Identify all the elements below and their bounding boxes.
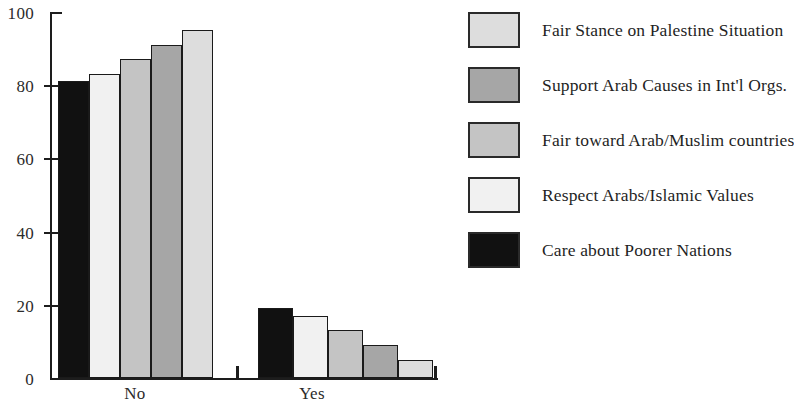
bar-yes-care-about-poorer-nations <box>258 308 293 378</box>
legend-item-care-about-poorer-nations: Care about Poorer Nations <box>468 228 732 272</box>
legend-swatch-fair-stance-on-palestine <box>468 12 520 48</box>
y-tick-label-0: 0 <box>0 371 34 388</box>
legend-item-respect-arabs-islamic-values: Respect Arabs/Islamic Values <box>468 173 754 217</box>
plot-area: 100 80 60 40 20 0 No Yes <box>0 0 460 407</box>
y-axis-line <box>50 12 52 380</box>
y-tick-mark-40 <box>44 232 58 234</box>
legend-item-support-arab-causes: Support Arab Causes in Int'l Orgs. <box>468 63 787 107</box>
bar-no-care-about-poorer-nations <box>58 81 89 378</box>
legend-swatch-care-about-poorer-nations <box>468 232 520 268</box>
legend-label-support-arab-causes: Support Arab Causes in Int'l Orgs. <box>542 75 787 96</box>
y-tick-mark-60 <box>44 158 58 160</box>
bar-no-fair-toward-arab-muslim-countries <box>120 59 151 378</box>
x-axis-label-yes: Yes <box>282 385 342 402</box>
x-axis-label-no: No <box>105 385 165 402</box>
bar-yes-respect-arabs-islamic-values <box>293 316 328 379</box>
y-tick-label-80: 80 <box>0 78 34 95</box>
y-axis-top-cap <box>50 12 62 14</box>
bar-yes-support-arab-causes <box>363 345 398 378</box>
y-tick-label-20: 20 <box>0 298 34 315</box>
bar-yes-fair-stance-on-palestine <box>398 360 433 379</box>
x-axis-group-separator-tick <box>236 366 239 378</box>
legend-swatch-respect-arabs-islamic-values <box>468 177 520 213</box>
bar-no-respect-arabs-islamic-values <box>89 74 120 378</box>
legend-label-care-about-poorer-nations: Care about Poorer Nations <box>542 240 732 261</box>
legend-label-fair-toward-arab-muslim-countries: Fair toward Arab/Muslim countries <box>542 130 794 151</box>
y-tick-label-60: 60 <box>0 151 34 168</box>
y-tick-label-40: 40 <box>0 225 34 242</box>
bar-no-fair-stance-on-palestine <box>182 30 213 378</box>
legend-item-fair-stance-on-palestine: Fair Stance on Palestine Situation <box>468 8 783 52</box>
chart-legend: Fair Stance on Palestine Situation Suppo… <box>460 0 785 407</box>
x-axis-line <box>50 378 438 380</box>
legend-item-fair-toward-arab-muslim-countries: Fair toward Arab/Muslim countries <box>468 118 794 162</box>
y-tick-mark-80 <box>44 85 58 87</box>
legend-label-respect-arabs-islamic-values: Respect Arabs/Islamic Values <box>542 185 754 206</box>
bar-yes-fair-toward-arab-muslim-countries <box>328 330 363 378</box>
legend-swatch-support-arab-causes <box>468 67 520 103</box>
legend-label-fair-stance-on-palestine: Fair Stance on Palestine Situation <box>542 20 783 41</box>
y-tick-label-100: 100 <box>0 5 34 22</box>
x-axis-end-tick <box>434 366 437 378</box>
y-tick-mark-20 <box>44 305 58 307</box>
bar-no-support-arab-causes <box>151 45 182 378</box>
legend-swatch-fair-toward-arab-muslim-countries <box>468 122 520 158</box>
